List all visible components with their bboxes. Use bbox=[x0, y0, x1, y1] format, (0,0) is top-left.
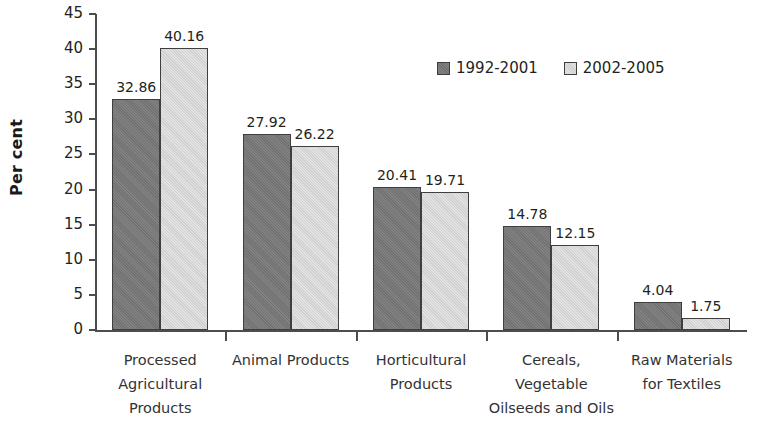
category-label-line: Animal Products bbox=[219, 348, 361, 372]
y-axis-tick-labels: 454035302520151050 bbox=[0, 0, 95, 427]
bar bbox=[503, 226, 551, 330]
category-label-line: Cereals, bbox=[480, 348, 622, 372]
bar bbox=[373, 187, 421, 330]
y-axis-tick-label: 5 bbox=[23, 287, 83, 302]
x-axis-tick-mark bbox=[486, 332, 488, 341]
y-axis-tick-label: 40 bbox=[23, 41, 83, 56]
x-axis-category-label: Cereals,VegetableOilseeds and Oils bbox=[480, 348, 622, 420]
y-axis-tick-label: 10 bbox=[23, 252, 83, 267]
x-axis-category-label: HorticulturalProducts bbox=[350, 348, 492, 396]
x-axis-category-label: ProcessedAgriculturalProducts bbox=[89, 348, 231, 420]
bar bbox=[243, 134, 291, 330]
bar bbox=[421, 192, 469, 330]
y-axis-tick-label: 25 bbox=[23, 146, 83, 161]
category-label-line: Raw Materials bbox=[611, 348, 753, 372]
legend-item-series-0[interactable]: 1992-2001 bbox=[437, 59, 538, 77]
y-axis-tick-label: 0 bbox=[23, 322, 83, 337]
y-axis-tick-label: 15 bbox=[23, 217, 83, 232]
x-axis-tick-mark bbox=[356, 332, 358, 341]
chart-legend: 1992-2001 2002-2005 bbox=[437, 59, 665, 77]
category-label-line: Vegetable bbox=[480, 372, 622, 396]
bar-value-label: 14.78 bbox=[495, 207, 559, 221]
x-axis-tick-mark bbox=[225, 332, 227, 341]
legend-swatch-icon-series-0 bbox=[437, 62, 450, 75]
legend-label-series-1: 2002-2005 bbox=[583, 59, 665, 77]
x-axis-tick-mark bbox=[617, 332, 619, 341]
category-label-line: Processed bbox=[89, 348, 231, 372]
bar bbox=[112, 99, 160, 330]
bar bbox=[551, 245, 599, 330]
bar-chart: Per cent 454035302520151050 32.8640.1627… bbox=[0, 0, 759, 427]
y-axis-tick-label: 30 bbox=[23, 111, 83, 126]
bar bbox=[160, 48, 208, 330]
category-label-line: for Textiles bbox=[611, 372, 753, 396]
bar-value-label: 4.04 bbox=[626, 283, 690, 297]
bar bbox=[291, 146, 339, 330]
category-label-line: Horticultural bbox=[350, 348, 492, 372]
bar-value-label: 19.71 bbox=[413, 173, 477, 187]
category-label-line: Products bbox=[89, 396, 231, 420]
x-axis-category-label: Raw Materialsfor Textiles bbox=[611, 348, 753, 396]
bar-value-label: 1.75 bbox=[674, 299, 738, 313]
y-axis-tick-label: 45 bbox=[23, 6, 83, 21]
bar-value-label: 40.16 bbox=[152, 29, 216, 43]
bar-value-label: 12.15 bbox=[543, 226, 607, 240]
x-axis-line bbox=[95, 330, 747, 332]
bar-value-label: 26.22 bbox=[283, 127, 347, 141]
legend-item-series-1[interactable]: 2002-2005 bbox=[564, 59, 665, 77]
category-label-line: Agricultural bbox=[89, 372, 231, 396]
category-label-line: Oilseeds and Oils bbox=[480, 396, 622, 420]
bar bbox=[682, 318, 730, 330]
y-axis-tick-label: 35 bbox=[23, 76, 83, 91]
legend-label-series-0: 1992-2001 bbox=[456, 59, 538, 77]
bar-value-label: 32.86 bbox=[104, 80, 168, 94]
y-axis-line bbox=[95, 14, 97, 331]
category-label-line: Products bbox=[350, 372, 492, 396]
y-axis-tick-label: 20 bbox=[23, 182, 83, 197]
legend-swatch-icon-series-1 bbox=[564, 62, 577, 75]
x-axis-category-label: Animal Products bbox=[219, 348, 361, 372]
